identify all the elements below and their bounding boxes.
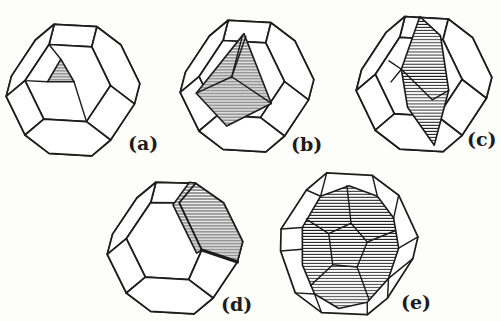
panel-label-c: (c) [467,127,497,151]
panel-label-d: (d) [221,292,252,316]
panel-label-a: (a) [128,131,158,155]
figure-crystal-shapes: (a) (b) [0,0,501,321]
crystal-drawing-a [4,14,142,166]
panel-label-e: (e) [401,290,431,314]
panel-label-b: (b) [291,132,322,156]
